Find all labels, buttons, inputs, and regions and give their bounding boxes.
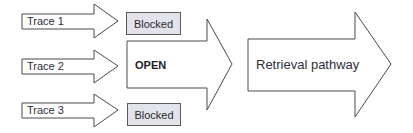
blocked-box-trace-1: Blocked xyxy=(126,12,181,35)
trace-1-label: Trace 1 xyxy=(27,16,64,27)
blocked-box-trace-3: Blocked xyxy=(127,103,181,126)
trace-2-label: Trace 2 xyxy=(27,61,64,72)
open-label: OPEN xyxy=(135,60,166,71)
trace-3-label: Trace 3 xyxy=(27,105,64,116)
retrieval-pathway-label: Retrieval pathway xyxy=(256,58,359,71)
